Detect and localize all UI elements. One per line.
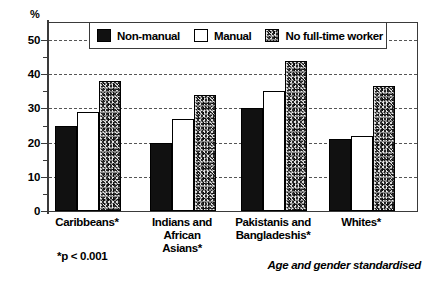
legend-swatch-icon (97, 29, 111, 42)
y-tick-major-40 (41, 74, 49, 75)
bar (263, 91, 285, 211)
bar (77, 112, 99, 211)
y-tick-minor-15 (43, 160, 48, 161)
y-tick-label: 50 (14, 34, 40, 46)
bar (329, 139, 351, 211)
bars-layer (49, 23, 417, 211)
y-tick-minor-5 (43, 194, 48, 195)
y-tick-label: 10 (14, 171, 40, 183)
y-tick-minor-45 (43, 57, 48, 58)
y-tick-major-30 (41, 108, 49, 109)
x-axis-category-line: Bangladeshis* (213, 229, 333, 242)
bar (373, 86, 395, 211)
bar (55, 126, 77, 211)
x-axis-category-line: Asians* (122, 242, 242, 255)
bar (172, 119, 194, 211)
chart-legend: Non-manualManualNo full-time worker (89, 22, 387, 49)
p-value-note: *p < 0.001 (57, 250, 107, 262)
bar (194, 95, 216, 211)
legend-swatch-icon (265, 29, 279, 42)
legend-item: Manual (194, 29, 252, 42)
x-axis-category-line: Whites* (301, 216, 421, 229)
bar-chart: % 01020304050 Non-manualManualNo full-ti… (0, 0, 435, 289)
legend-item: Non-manual (97, 29, 180, 42)
bar (285, 61, 307, 211)
legend-swatch-icon (194, 29, 208, 42)
y-tick-major-0 (41, 211, 49, 212)
legend-label: No full-time worker (285, 30, 383, 42)
y-tick-label: 30 (14, 102, 40, 114)
bar (150, 143, 172, 211)
legend-label: Manual (214, 30, 252, 42)
y-tick-label: 20 (14, 137, 40, 149)
legend-label: Non-manual (117, 30, 180, 42)
y-tick-major-10 (41, 177, 49, 178)
standardisation-note: Age and gender standardised (267, 259, 421, 271)
y-tick-minor-25 (43, 126, 48, 127)
legend-item: No full-time worker (265, 29, 383, 42)
bar (99, 81, 121, 211)
y-tick-major-50 (41, 40, 49, 41)
y-tick-major-20 (41, 143, 49, 144)
bar (351, 136, 373, 211)
bar (241, 108, 263, 211)
y-tick-minor-35 (43, 91, 48, 92)
x-axis-category-label: Whites* (301, 216, 421, 229)
y-axis-unit-label: % (30, 8, 39, 20)
y-tick-label: 40 (14, 68, 40, 80)
